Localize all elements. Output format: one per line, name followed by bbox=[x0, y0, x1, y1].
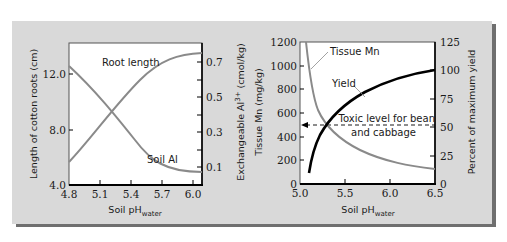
right-x-axis-title: Soil pHwater bbox=[341, 204, 394, 218]
svg-text:1000: 1000 bbox=[270, 60, 297, 72]
left-x-axis-title: Soil pHwater bbox=[108, 204, 161, 218]
svg-text:0: 0 bbox=[290, 178, 297, 190]
svg-text:75: 75 bbox=[440, 93, 453, 105]
left-y-tick-labels: 4.0 8.0 12.0 bbox=[43, 68, 66, 191]
right-y2-tick-labels: 0 25 50 75 100 125 bbox=[440, 36, 460, 190]
yield-label: Yield bbox=[331, 78, 356, 89]
svg-text:200: 200 bbox=[277, 154, 297, 166]
left-chart: Root length Soil Al 4.8 5.1 5.4 5.7 6.0 … bbox=[28, 43, 246, 218]
svg-text:12.0: 12.0 bbox=[43, 68, 66, 80]
root-length-label: Root length bbox=[102, 57, 160, 68]
svg-text:1200: 1200 bbox=[270, 36, 297, 48]
left-x-tick-labels: 4.8 5.1 5.4 5.7 6.0 bbox=[61, 188, 202, 200]
svg-text:0.1: 0.1 bbox=[206, 161, 223, 173]
left-y-axis-title: Length of cotton roots (cm) bbox=[28, 49, 39, 179]
right-chart: Tissue Mn Yield Toxic level for bean and… bbox=[253, 36, 477, 218]
svg-text:0.3: 0.3 bbox=[206, 126, 223, 138]
right-y2-axis-title: Percent of maximum yield bbox=[466, 50, 477, 175]
right-y-tick-labels: 0 200 400 600 800 1000 1200 bbox=[270, 36, 297, 190]
toxic-level-label-line2: and cabbage bbox=[351, 127, 416, 138]
svg-text:0.7: 0.7 bbox=[206, 56, 223, 68]
svg-text:5.4: 5.4 bbox=[123, 188, 140, 200]
right-x-tick-labels: 5.0 5.5 6.0 6.5 bbox=[292, 187, 444, 199]
svg-text:0: 0 bbox=[440, 178, 447, 190]
svg-text:125: 125 bbox=[440, 36, 460, 48]
left-y2-tick-labels: 0.1 0.3 0.5 0.7 bbox=[206, 56, 223, 173]
figure-svg: Root length Soil Al 4.8 5.1 5.4 5.7 6.0 … bbox=[0, 0, 507, 242]
soil-al-label: Soil Al bbox=[147, 154, 178, 165]
right-y-axis-title: Tissue Mn (mg/kg) bbox=[253, 68, 264, 157]
svg-text:5.5: 5.5 bbox=[337, 187, 354, 199]
svg-text:6.0: 6.0 bbox=[382, 187, 399, 199]
svg-text:800: 800 bbox=[277, 83, 297, 95]
left-y2-axis-title: Exchangeable Al3+ (cmol/kg) bbox=[234, 43, 246, 180]
svg-text:5.1: 5.1 bbox=[92, 188, 109, 200]
svg-text:6.0: 6.0 bbox=[185, 188, 202, 200]
svg-text:400: 400 bbox=[277, 131, 297, 143]
svg-text:8.0: 8.0 bbox=[49, 124, 66, 136]
svg-text:5.7: 5.7 bbox=[154, 188, 171, 200]
svg-text:600: 600 bbox=[277, 107, 297, 119]
tissue-mn-label: Tissue Mn bbox=[329, 46, 380, 57]
svg-text:50: 50 bbox=[440, 121, 453, 133]
svg-text:100: 100 bbox=[440, 64, 460, 76]
svg-text:4.0: 4.0 bbox=[49, 179, 66, 191]
svg-text:0.5: 0.5 bbox=[206, 91, 223, 103]
toxic-level-label-line1: Toxic level for bean bbox=[338, 113, 435, 124]
svg-text:25: 25 bbox=[440, 150, 453, 162]
